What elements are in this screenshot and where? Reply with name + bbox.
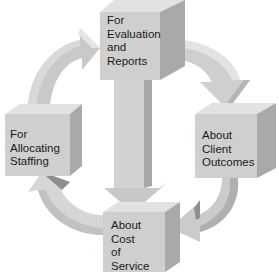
label-line: About	[111, 219, 149, 233]
label-line: Allocating	[10, 142, 60, 156]
label-line: For	[10, 128, 60, 142]
arrow-top-to-bottom	[104, 76, 168, 212]
node-label-right: About Client Outcomes	[202, 129, 254, 170]
node-label-left: For Allocating Staffing	[10, 128, 60, 169]
label-line: and	[107, 41, 161, 55]
node-label-top: For Evaluation and Reports	[107, 14, 161, 68]
label-line: Staffing	[10, 155, 60, 169]
label-line: Outcomes	[202, 156, 254, 170]
arrow-left-to-top	[28, 28, 100, 107]
label-line: Service	[111, 260, 149, 274]
label-line: Reports	[107, 55, 161, 69]
label-line: Client	[202, 143, 254, 157]
label-line: Cost	[111, 233, 149, 247]
arrow-bottom-to-left	[28, 172, 103, 235]
node-label-bottom: About Cost of Service	[111, 219, 149, 273]
label-line: of	[111, 246, 149, 260]
label-line: Evaluation	[107, 28, 161, 42]
arrow-right-to-bottom	[170, 178, 238, 242]
arrow-top-to-right	[180, 40, 250, 110]
label-line: For	[107, 14, 161, 28]
label-line: About	[202, 129, 254, 143]
